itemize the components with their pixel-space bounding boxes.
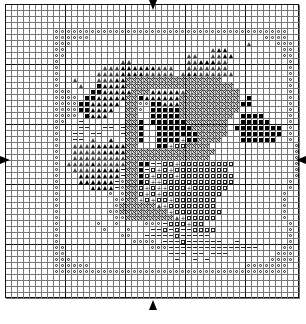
center-arrow-right-icon: [0, 156, 10, 164]
center-arrow-up-icon: [149, 300, 157, 310]
center-arrow-down-icon: [149, 0, 157, 10]
empty-cell: [294, 293, 300, 299]
stitch-grid: [6, 5, 300, 299]
center-arrow-left-icon: [296, 156, 306, 164]
cross-stitch-chart: [5, 4, 299, 298]
